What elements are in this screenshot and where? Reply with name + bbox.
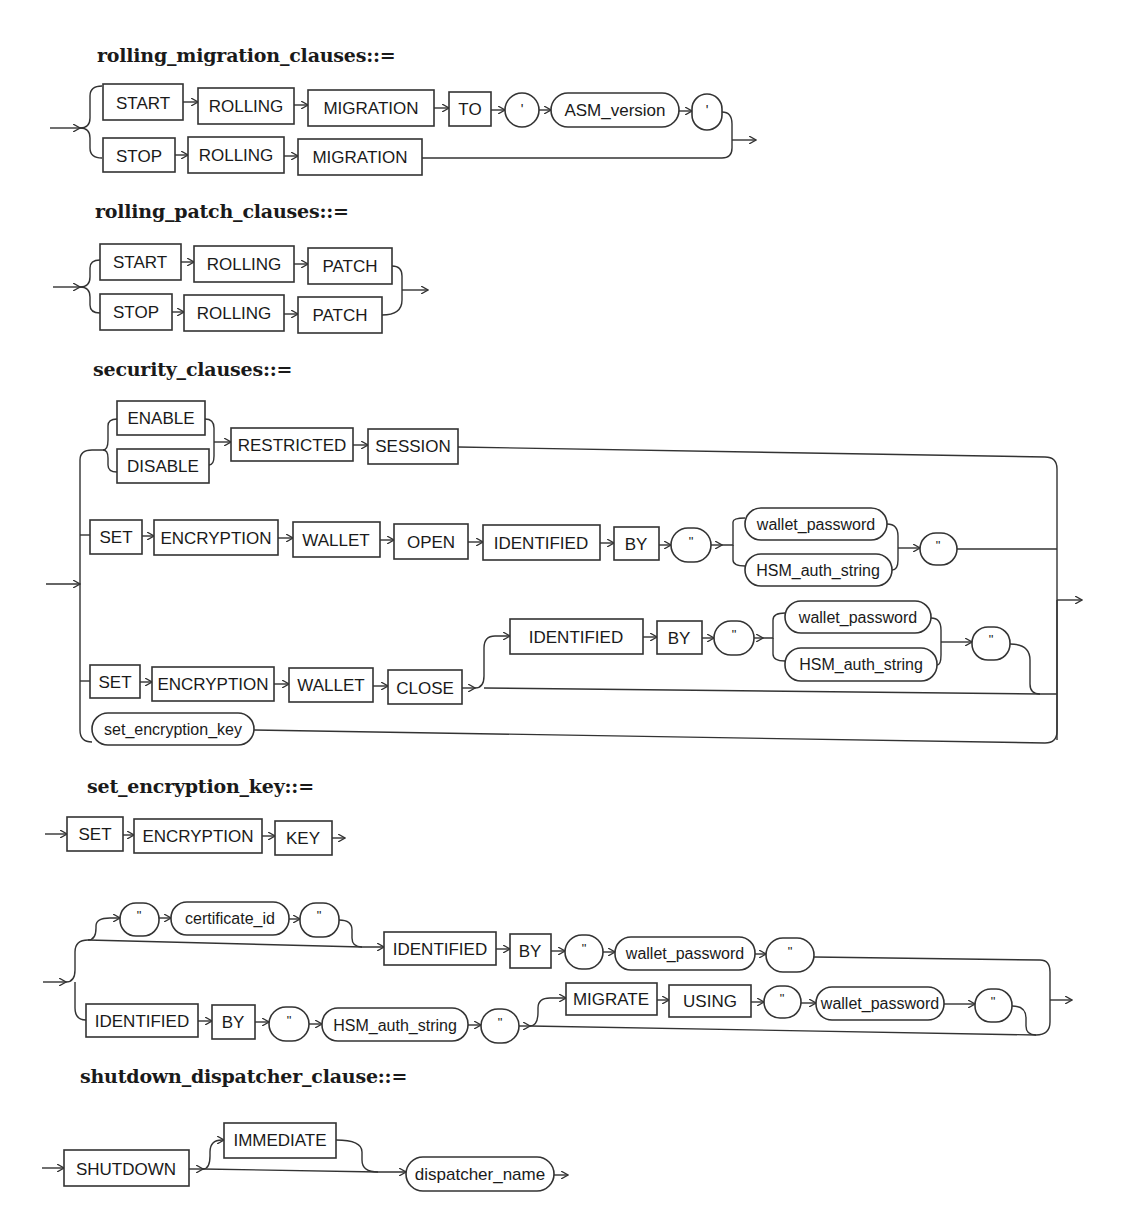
- svg-text:ROLLING: ROLLING: [197, 304, 272, 323]
- svg-text:OPEN: OPEN: [407, 533, 455, 552]
- svg-text:': ': [706, 102, 709, 118]
- svg-text:USING: USING: [683, 992, 737, 1011]
- svg-text:": ": [989, 632, 994, 647]
- svg-text:IDENTIFIED: IDENTIFIED: [529, 628, 623, 647]
- svg-text:dispatcher_name: dispatcher_name: [415, 1165, 545, 1184]
- param-asm-version-label: ASM_version: [564, 101, 665, 120]
- svg-text:": ": [498, 1015, 503, 1030]
- svg-text:CLOSE: CLOSE: [396, 679, 454, 698]
- svg-text:KEY: KEY: [286, 829, 320, 848]
- svg-text:SET: SET: [98, 673, 131, 692]
- keyword-migration-label: MIGRATION: [323, 99, 418, 118]
- svg-text:STOP: STOP: [113, 303, 159, 322]
- svg-text:wallet_password: wallet_password: [756, 516, 875, 534]
- svg-text:set_encryption_key: set_encryption_key: [104, 721, 242, 739]
- svg-text:ROLLING: ROLLING: [207, 255, 282, 274]
- svg-text:SET: SET: [78, 825, 111, 844]
- svg-text:": ": [689, 534, 694, 549]
- set-encryption-key-continuation: " certificate_id " IDENTIFIED BY " walle…: [43, 902, 1072, 1043]
- svg-text:": ": [582, 941, 587, 956]
- svg-text:ENCRYPTION: ENCRYPTION: [160, 529, 271, 548]
- svg-text:wallet_password: wallet_password: [798, 609, 917, 627]
- svg-text:wallet_password: wallet_password: [625, 945, 744, 963]
- svg-text:": ": [732, 627, 737, 642]
- keyword-migration-label: MIGRATION: [312, 148, 407, 167]
- svg-text:DISABLE: DISABLE: [127, 457, 199, 476]
- svg-text:certificate_id: certificate_id: [185, 910, 275, 928]
- svg-text:BY: BY: [668, 629, 691, 648]
- svg-text:BY: BY: [625, 535, 648, 554]
- svg-text:IDENTIFIED: IDENTIFIED: [494, 534, 588, 553]
- keyword-to-label: TO: [458, 100, 481, 119]
- svg-text:MIGRATE: MIGRATE: [573, 990, 649, 1009]
- svg-text:BY: BY: [519, 942, 542, 961]
- svg-text:HSM_auth_string: HSM_auth_string: [333, 1017, 457, 1035]
- svg-text:IDENTIFIED: IDENTIFIED: [95, 1012, 189, 1031]
- svg-text:SESSION: SESSION: [375, 437, 451, 456]
- svg-text:HSM_auth_string: HSM_auth_string: [756, 562, 880, 580]
- svg-text:IMMEDIATE: IMMEDIATE: [233, 1131, 326, 1150]
- syntax-diagram-canvas: START ROLLING MIGRATION TO ' ASM_version…: [0, 0, 1132, 1215]
- set-encryption-key-diagram: SET ENCRYPTION KEY: [45, 817, 345, 855]
- svg-text:": ": [936, 538, 941, 553]
- svg-text:WALLET: WALLET: [302, 531, 369, 550]
- svg-text:": ": [780, 991, 785, 1006]
- svg-text:": ": [317, 908, 322, 923]
- svg-text:START: START: [113, 253, 167, 272]
- svg-text:PATCH: PATCH: [312, 306, 367, 325]
- svg-text:": ": [788, 944, 793, 959]
- svg-text:SET: SET: [99, 528, 132, 547]
- svg-text:": ": [287, 1013, 292, 1028]
- svg-text:BY: BY: [222, 1013, 245, 1032]
- security-clauses-diagram: ENABLE DISABLE RESTRICTED SESSION SET EN…: [46, 401, 1082, 745]
- svg-text:ENCRYPTION: ENCRYPTION: [157, 675, 268, 694]
- svg-text:IDENTIFIED: IDENTIFIED: [393, 940, 487, 959]
- svg-text:ENCRYPTION: ENCRYPTION: [142, 827, 253, 846]
- svg-text:ENABLE: ENABLE: [127, 409, 194, 428]
- svg-text:": ": [137, 908, 142, 923]
- svg-text:PATCH: PATCH: [322, 257, 377, 276]
- svg-text:': ': [521, 101, 524, 117]
- svg-text:RESTRICTED: RESTRICTED: [238, 436, 347, 455]
- svg-text:SHUTDOWN: SHUTDOWN: [76, 1160, 176, 1179]
- svg-text:": ": [991, 994, 996, 1009]
- svg-text:HSM_auth_string: HSM_auth_string: [799, 656, 923, 674]
- keyword-rolling-label: ROLLING: [209, 97, 284, 116]
- svg-text:WALLET: WALLET: [297, 676, 364, 695]
- rolling-migration-diagram: START ROLLING MIGRATION TO ' ASM_version…: [50, 84, 756, 175]
- svg-text:wallet_password: wallet_password: [820, 995, 939, 1013]
- shutdown-dispatcher-diagram: SHUTDOWN IMMEDIATE dispatcher_name: [42, 1123, 568, 1191]
- keyword-rolling-label: ROLLING: [199, 146, 274, 165]
- rolling-patch-diagram: START ROLLING PATCH STOP ROLLING PATCH: [53, 244, 428, 333]
- keyword-stop-label: STOP: [116, 147, 162, 166]
- keyword-start-label: START: [116, 94, 170, 113]
